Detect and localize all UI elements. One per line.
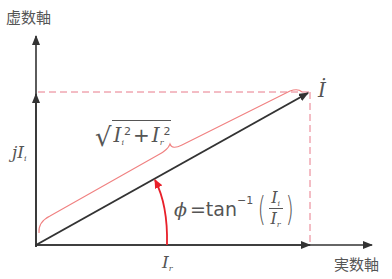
phi-symbol: ϕ: [174, 198, 187, 220]
term1-sup: 2: [124, 125, 131, 138]
magnitude-formula: √Ii2+Ir2: [95, 118, 171, 148]
imag-label-sub: i: [24, 154, 27, 163]
tan-text: =tan: [190, 198, 237, 220]
real-component-label: Ir: [162, 252, 173, 273]
term2-sub: r: [160, 138, 164, 147]
fraction-numerator: Ii: [269, 188, 282, 208]
term1-sub: i: [121, 138, 124, 147]
paren-open: (: [258, 189, 266, 229]
fraction: Ii Ir: [269, 188, 283, 229]
angle-arc: [155, 180, 167, 245]
sqrt-radicand: Ii2+Ir2: [112, 120, 171, 147]
imaginary-component-label: jIi: [12, 142, 27, 163]
phasor-diagram: [0, 0, 392, 279]
imaginary-axis-label: 虚数軸: [6, 6, 51, 27]
angle-formula: ϕ =tan −1 ( Ii Ir ): [174, 188, 296, 229]
term2-sup: 2: [164, 125, 171, 138]
sqrt-symbol: √: [95, 122, 112, 152]
paren-close: ): [285, 189, 293, 229]
real-label-sub: r: [169, 264, 173, 273]
real-label-main: I: [162, 252, 169, 272]
fraction-denominator: Ir: [269, 209, 283, 229]
den-sub: r: [277, 220, 281, 229]
vector-label: İ: [318, 78, 326, 102]
real-axis-label: 実数軸: [334, 253, 379, 274]
num-sub: i: [277, 199, 280, 208]
term2: I: [152, 123, 160, 147]
inverse-sup: −1: [237, 194, 253, 207]
plus-sign: +: [133, 123, 150, 147]
imag-label-main: jI: [12, 142, 24, 162]
